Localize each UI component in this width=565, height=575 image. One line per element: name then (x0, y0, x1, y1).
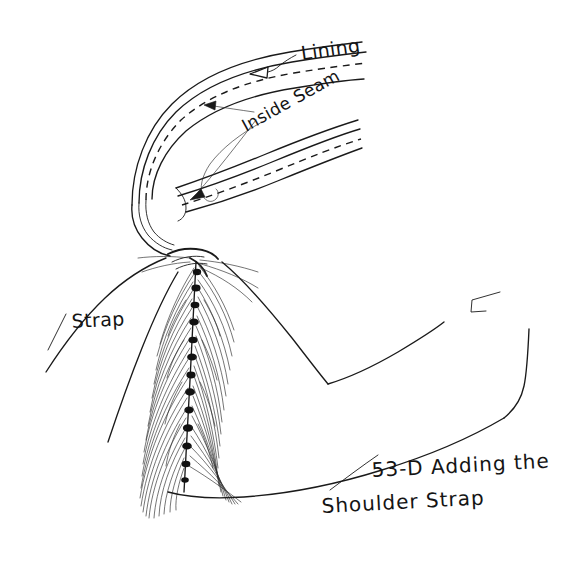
caption-line-2: Shoulder Strap (321, 485, 485, 518)
caption-line-1: 53-D Adding the (371, 449, 550, 482)
strap-lower-edge (108, 272, 178, 442)
illustration-figure: Lining Inside Seam Strap 53-D Adding the… (0, 0, 565, 575)
label-strap: Strap (71, 307, 125, 332)
flap-lower-second-edge (178, 129, 360, 196)
flap-left-roll-inner (139, 203, 172, 250)
flap-lower-bottom-edge (186, 148, 362, 212)
upper-arm-edge (222, 262, 328, 384)
fringe-strands-right (189, 266, 241, 504)
side-vertical-edge (504, 329, 529, 418)
strap-leader-line (48, 314, 66, 350)
gather-point-cinch (168, 249, 218, 259)
forearm-edge (328, 322, 444, 384)
inside-seam-arrowhead-upper-icon (204, 101, 216, 110)
inside-seam-curl (201, 122, 262, 201)
label-inside-seam: Inside Seam (238, 65, 343, 135)
elbow-detail-mark (471, 292, 500, 312)
annotation-leaders (48, 55, 378, 490)
fringe-assembly (138, 257, 258, 519)
lining-leader-line (268, 55, 296, 72)
flap-lower-outer-edge (176, 120, 358, 188)
flap-lower-stitch-line (182, 139, 361, 205)
label-lining: Lining (299, 34, 361, 64)
strap-band (46, 258, 178, 442)
line-drawing-canvas: Lining Inside Seam Strap 53-D Adding the… (0, 0, 565, 575)
inside-seam-arrowhead-lower-icon (190, 189, 205, 200)
flap-left-roll-edge (132, 205, 170, 256)
flap-left-roll-crease (146, 200, 174, 245)
